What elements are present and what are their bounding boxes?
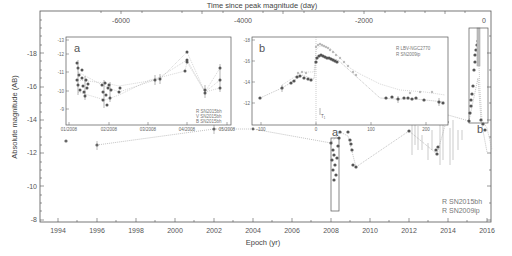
y-tick-label: -12: [27, 149, 37, 156]
svg-text:-100: -100: [256, 127, 266, 132]
y-axis-title: Absolute magnitude (AB): [10, 75, 19, 159]
top-tick-label: 0: [482, 17, 486, 24]
svg-text:03/2008: 03/2008: [140, 127, 157, 132]
x-tick-label: 2012: [401, 227, 417, 234]
y-tick-label: -18: [27, 50, 37, 57]
top-axis-title: Time since peak magnitude (day): [207, 1, 318, 10]
svg-text:01/2008: 01/2008: [61, 127, 78, 132]
legend-entry: R SN2015bh: [442, 198, 482, 205]
svg-text:-12: -12: [243, 101, 250, 106]
legend-entry: R SN2009ip: [442, 207, 480, 215]
x-tick-label: 2000: [167, 227, 183, 234]
svg-text:-13: -13: [57, 38, 64, 43]
x-axis-ticks: [58, 218, 487, 222]
svg-text:-11: -11: [58, 70, 65, 75]
svg-text:-12: -12: [57, 52, 64, 57]
svg-text:R SN2009ip: R SN2009ip: [396, 52, 421, 57]
y-tick-label: -8: [31, 216, 37, 223]
svg-text:05/2008: 05/2008: [219, 127, 236, 132]
svg-text:100: 100: [367, 127, 375, 132]
svg-text:04/2008: 04/2008: [179, 127, 196, 132]
x-tick-label: 2008: [323, 227, 339, 234]
box-a-label: a: [332, 126, 339, 138]
top-tick-label: -2000: [355, 17, 373, 24]
svg-text:R LBV-NGC2770: R LBV-NGC2770: [396, 46, 431, 51]
x-tick-label: 2006: [284, 227, 300, 234]
svg-text:B SN2015bh: B SN2015bh: [196, 119, 222, 124]
x-tick-label: 2002: [206, 227, 222, 234]
svg-text:T₁: T₁: [321, 114, 326, 119]
x-tick-label: 1996: [89, 227, 105, 234]
svg-text:02/2008: 02/2008: [101, 127, 118, 132]
x-tick-label: 1998: [128, 227, 144, 234]
svg-text:-16: -16: [243, 59, 250, 64]
svg-text:0: 0: [315, 127, 318, 132]
y-tick-label: -16: [27, 83, 37, 90]
svg-text:-10: -10: [57, 89, 64, 94]
svg-text:a: a: [74, 42, 81, 54]
svg-text:-14: -14: [243, 80, 250, 85]
chart-canvas: Time since peak magnitude (day) -6000 -4…: [0, 0, 512, 256]
svg-text:200: 200: [422, 127, 430, 132]
inset-b: b -18 -16 -14 -12 -100 0 100 200 T₁: [243, 37, 448, 132]
x-tick-label: 2014: [440, 227, 456, 234]
y-tick-label: -14: [27, 116, 37, 123]
x-tick-label: 2010: [362, 227, 378, 234]
x-tick-label: 2004: [245, 227, 261, 234]
x-axis-title: Epoch (yr): [246, 238, 281, 247]
svg-text:-9: -9: [60, 107, 64, 112]
inset-a: a -13 -12 -11 -10 -9 01/2008 02/2008 03/…: [57, 37, 235, 132]
svg-text:b: b: [259, 42, 265, 54]
box-b-label: b: [477, 123, 483, 135]
top-axis-ticks: [101, 11, 465, 14]
y-tick-label: -10: [27, 183, 37, 190]
x-tick-label: 2016: [479, 227, 495, 234]
svg-text:-18: -18: [243, 38, 250, 43]
top-tick-label: -4000: [234, 17, 252, 24]
top-tick-label: -6000: [112, 17, 130, 24]
x-tick-label: 1994: [50, 227, 66, 234]
